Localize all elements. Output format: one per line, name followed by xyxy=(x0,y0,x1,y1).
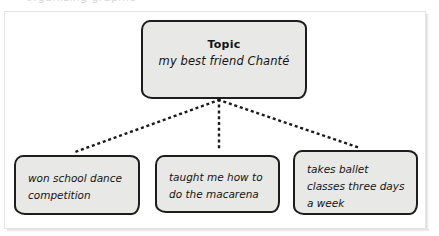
detail-node-1[interactable]: taught me how to do the macarena xyxy=(155,155,280,213)
page-frame-bottom-shadow xyxy=(7,229,429,232)
topic-subtitle: my best friend Chanté xyxy=(143,53,305,70)
page-frame-right-shadow xyxy=(426,14,429,232)
topic-node[interactable]: Topic my best friend Chanté xyxy=(141,20,307,99)
detail-node-2-text: takes ballet classes three days a week xyxy=(307,161,408,212)
detail-node-2[interactable]: takes ballet classes three days a week xyxy=(293,150,418,215)
topic-title: Topic xyxy=(143,37,305,53)
detail-node-1-text: taught me how to do the macarena xyxy=(169,169,270,203)
detail-node-0-text: won school dance competition xyxy=(28,170,130,204)
graphic-organizer-page: organizing graphic Topic my best friend … xyxy=(0,0,439,236)
clipped-heading-remnant: organizing graphic xyxy=(26,0,226,3)
detail-node-0[interactable]: won school dance competition xyxy=(14,155,140,215)
